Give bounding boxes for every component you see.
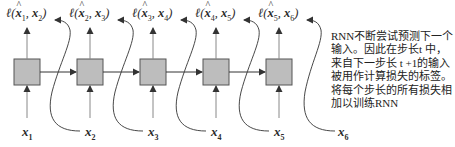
rnn-cell-3	[140, 59, 166, 85]
rnn-cell-4	[203, 59, 229, 85]
loss-label-1: ℓ(x1, x2)	[6, 6, 46, 23]
loss-label-5: ℓ(x5, x6)	[258, 6, 298, 23]
rnn-cell-2	[77, 59, 103, 85]
annotation-line-4: 被用作计算损失的标签。	[331, 70, 453, 83]
annotation-line-3: 来自下一步长 t +1的输入	[331, 57, 453, 70]
annotation-line-5: 将每个步长的所有损失相	[331, 84, 453, 97]
annotation-line-2: 输入。因此在步长t 中，	[331, 43, 453, 56]
target-curve-2	[50, 20, 80, 131]
rnn-cell-1	[14, 59, 40, 85]
loss-label-2: ℓ(x2, x3)	[69, 6, 109, 23]
target-curve-4	[176, 20, 206, 131]
annotation-line-1: RNN不断尝试预测下一个	[331, 30, 453, 43]
input-label-6: x6	[338, 124, 349, 142]
input-label-2: x2	[85, 124, 96, 142]
input-label-3: x3	[148, 124, 159, 142]
input-label-5: x5	[274, 124, 285, 142]
input-label-1: x1	[22, 124, 33, 142]
loss-label-3: ℓ(x3, x4)	[132, 6, 172, 23]
target-curve-5	[239, 20, 269, 131]
loss-label-4: ℓ(x4, x5)	[195, 6, 235, 23]
input-label-4: x4	[211, 124, 222, 142]
annotation-line-6: 加以训练RNN	[331, 97, 453, 110]
rnn-cell-5	[266, 59, 292, 85]
annotation-note: RNN不断尝试预测下一个 输入。因此在步长t 中， 来自下一步长 t +1的输入…	[331, 30, 453, 110]
target-curve-3	[113, 20, 143, 131]
